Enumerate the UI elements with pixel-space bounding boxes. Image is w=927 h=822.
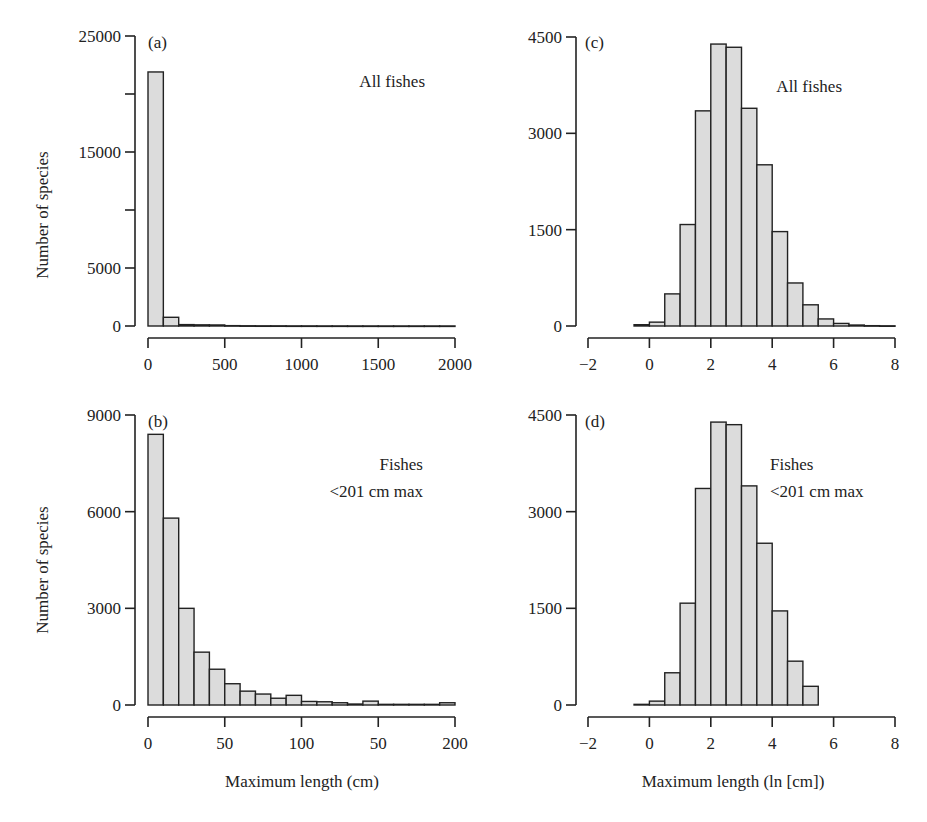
x-tick-label: 0: [645, 355, 654, 374]
y-tick-label: 1500: [528, 221, 562, 240]
y-tick-label: 25000: [79, 27, 122, 46]
panel-a-max-length-histogram: 0500015000250000500100015002000(a)All fi…: [79, 27, 473, 374]
histogram-bar: [864, 326, 879, 327]
x-tick-label: −2: [579, 355, 597, 374]
histogram-bar: [880, 326, 895, 327]
y-tick-label: 0: [113, 317, 122, 336]
x-tick-label: 0: [144, 734, 153, 753]
histogram-bar: [302, 701, 317, 705]
histogram-figure: 0500015000250000500100015002000(a)All fi…: [0, 0, 927, 822]
histogram-bar: [695, 488, 710, 705]
x-tick-label: 500: [212, 355, 238, 374]
histogram-bar: [409, 326, 424, 327]
histogram-bar: [742, 486, 757, 705]
histogram-bar: [363, 326, 378, 327]
panel-annotation: <201 cm max: [770, 482, 864, 501]
histogram-bar: [849, 325, 864, 326]
x-tick-label: 8: [891, 734, 900, 753]
y-axis-title-top: Number of species: [33, 151, 52, 278]
y-axis-title-bottom: Number of species: [33, 506, 52, 633]
y-tick-label: 0: [113, 696, 122, 715]
x-tick-label: 0: [645, 734, 654, 753]
x-tick-label: 0: [144, 355, 153, 374]
histogram-bar: [394, 704, 409, 705]
histogram-bar: [194, 325, 209, 326]
histogram-bar: [317, 326, 332, 327]
histogram-bar: [424, 326, 439, 327]
histogram-bar: [271, 698, 286, 705]
x-axis-title-left: Maximum length (cm): [225, 772, 379, 791]
histogram-bar: [803, 305, 818, 326]
panel-label: (d): [585, 412, 605, 431]
histogram-bar: [711, 44, 726, 326]
histogram-bar: [348, 326, 363, 327]
histogram-bar: [194, 652, 209, 705]
x-tick-label: 100: [289, 734, 315, 753]
x-tick-label: 4: [768, 734, 777, 753]
histogram-bar: [649, 701, 664, 705]
y-tick-label: 15000: [79, 143, 122, 162]
histogram-bar: [772, 611, 787, 705]
y-tick-label: 0: [554, 696, 563, 715]
histogram-bar: [240, 326, 255, 327]
histogram-bar: [348, 704, 363, 705]
x-tick-label: 8: [891, 355, 900, 374]
histogram-bar: [378, 326, 393, 327]
histogram-bar: [788, 661, 803, 705]
x-axis-title-right: Maximum length (ln [cm]): [642, 772, 825, 791]
x-tick-label: 200: [442, 734, 468, 753]
y-tick-label: 1500: [528, 599, 562, 618]
histogram-bar: [179, 325, 194, 326]
histogram-bar: [634, 325, 649, 326]
y-tick-label: 4500: [528, 28, 562, 47]
histogram-bar: [163, 518, 178, 705]
histogram-bar: [711, 422, 726, 705]
panel-label: (b): [148, 412, 168, 431]
histogram-bar: [665, 673, 680, 705]
histogram-bar: [818, 319, 833, 326]
histogram-bar: [834, 323, 849, 326]
panel-label: (a): [148, 33, 167, 52]
y-tick-label: 5000: [87, 259, 121, 278]
histogram-bar: [680, 603, 695, 705]
histogram-bar: [649, 322, 664, 326]
histogram-bar: [271, 326, 286, 327]
histogram-bar: [317, 702, 332, 705]
y-tick-label: 0: [554, 317, 563, 336]
histogram-bar: [163, 317, 178, 326]
panel-annotation: Fishes: [770, 455, 813, 474]
panel-annotation: <201 cm max: [329, 482, 423, 501]
y-tick-label: 4500: [528, 406, 562, 425]
x-tick-label: 6: [829, 355, 838, 374]
figure-canvas: 0500015000250000500100015002000(a)All fi…: [0, 0, 927, 822]
panel-annotation: Fishes: [380, 455, 423, 474]
histogram-bar: [665, 294, 680, 326]
histogram-bar: [148, 72, 163, 326]
x-tick-label: 2000: [438, 355, 472, 374]
histogram-bar: [440, 703, 455, 705]
histogram-bar: [803, 686, 818, 705]
y-tick-label: 3000: [528, 124, 562, 143]
panel-annotation: All fishes: [776, 77, 842, 96]
histogram-bar: [255, 694, 270, 705]
histogram-bar: [179, 608, 194, 705]
histogram-bar: [332, 703, 347, 705]
histogram-bar: [148, 434, 163, 705]
histogram-bar: [424, 704, 439, 705]
y-tick-label: 9000: [87, 406, 121, 425]
histogram-bar: [240, 691, 255, 705]
histogram-bar: [394, 326, 409, 327]
histogram-bar: [742, 108, 757, 326]
histogram-bar: [634, 704, 649, 705]
histogram-bar: [225, 684, 240, 705]
histogram-bar: [209, 669, 224, 705]
histogram-bar: [757, 543, 772, 705]
panel-label: (c): [585, 33, 604, 52]
histogram-bar: [788, 283, 803, 326]
histogram-bar: [286, 695, 301, 705]
histogram-bar: [726, 47, 741, 326]
panel-annotation: All fishes: [359, 72, 425, 91]
histogram-bar: [409, 704, 424, 705]
x-tick-label: 6: [829, 734, 838, 753]
x-tick-label: 4: [768, 355, 777, 374]
